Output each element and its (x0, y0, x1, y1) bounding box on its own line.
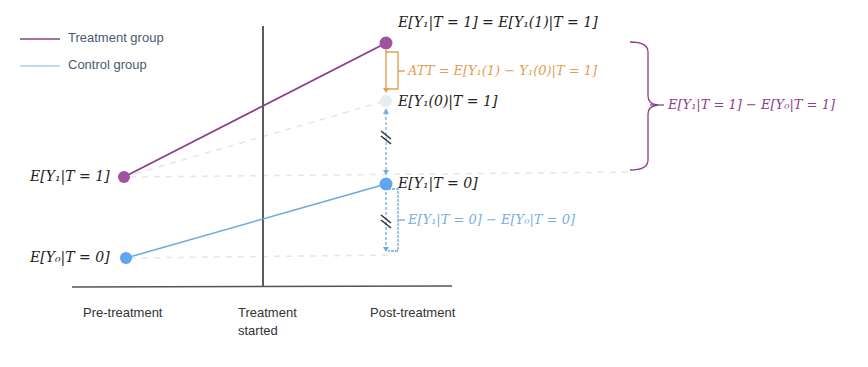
treatment-diff-label: E[Y₁|T = 1] − E[Y₀|T = 1] (668, 97, 835, 112)
did-diagram: Treatment group Control group Pre-treatm… (0, 0, 868, 367)
control-post-point (380, 178, 393, 191)
x-label-treatment-started-2: started (238, 322, 278, 340)
counterfactual-post-point (380, 95, 392, 107)
x-label-pre-treatment: Pre-treatment (83, 304, 162, 322)
control-pre-label: E[Y₀|T = 0] (30, 249, 110, 265)
treat-pre-level-line (130, 172, 630, 177)
att-bracket (383, 50, 405, 93)
counterfactual-post-label: E[Y₁(0)|T = 1] (398, 93, 497, 109)
legend-control-label: Control group (68, 57, 147, 72)
treat-post-point (380, 37, 393, 50)
x-label-post-treatment: Post-treatment (370, 304, 455, 322)
legend-treatment-label: Treatment group (68, 30, 164, 45)
x-label-treatment-started-1: Treatment (238, 304, 297, 322)
control-post-label: E[Y₁|T = 0] (398, 175, 478, 191)
treat-post-label: E[Y₁|T = 1] = E[Y₁(1)|T = 1] (398, 14, 598, 30)
control-diff-bracket (383, 189, 405, 252)
time-axis (72, 286, 452, 287)
treat-pre-label: E[Y₁|T = 1] (30, 168, 110, 184)
counterfactual-trend-line (124, 101, 385, 177)
control-pre-point (120, 252, 132, 264)
treatment-diff-brace (630, 42, 658, 170)
att-label: ATT = E[Y₁(1) − Y₁(0)|T = 1] (408, 63, 597, 78)
treatment-group-line (124, 43, 386, 177)
control-diff-label: E[Y₁|T = 0] − E[Y₀|T = 0] (408, 212, 575, 227)
control-group-line (126, 184, 386, 258)
axis-break-icon-lower (381, 215, 391, 228)
treat-pre-point (118, 171, 130, 183)
